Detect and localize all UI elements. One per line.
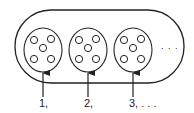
set-label-1: 1,	[39, 98, 48, 109]
set-1	[24, 28, 62, 72]
diagram-canvas	[0, 0, 194, 113]
continuation-ellipsis: . . .	[161, 42, 179, 51]
element-circle	[75, 55, 82, 62]
element-circle	[92, 55, 99, 62]
element-circle	[39, 44, 46, 51]
element-circle	[30, 36, 37, 43]
element-circle	[84, 44, 91, 51]
element-circle	[120, 55, 127, 62]
element-circle	[120, 36, 127, 43]
element-circle	[47, 55, 54, 62]
element-circle	[92, 35, 99, 42]
set-label-3: 3, . . .	[129, 98, 157, 109]
element-circle	[30, 55, 37, 62]
set-3	[114, 28, 152, 72]
element-circle	[47, 35, 54, 42]
set-oval	[69, 28, 107, 72]
element-circle	[75, 36, 82, 43]
element-circle	[137, 55, 144, 62]
element-circle	[129, 44, 136, 51]
set-oval	[24, 28, 62, 72]
set-oval	[114, 28, 152, 72]
element-circle	[137, 35, 144, 42]
set-2	[69, 28, 107, 72]
set-label-2: 2,	[84, 98, 93, 109]
